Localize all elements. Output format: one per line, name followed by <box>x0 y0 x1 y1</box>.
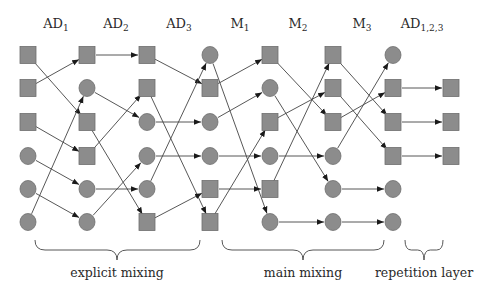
circle-node <box>79 181 95 198</box>
square-node <box>20 114 36 131</box>
edge-arrow <box>338 63 389 149</box>
square-node <box>20 80 36 97</box>
column-label: AD2 <box>102 16 129 33</box>
circle-node <box>79 214 95 231</box>
circle-node <box>79 80 95 97</box>
edge-arrow <box>34 62 81 115</box>
circle-node <box>202 148 218 165</box>
square-node <box>385 148 401 165</box>
mixing-network-diagram: AD1AD2AD3M1M2M3AD1,2,3 explicit mixingma… <box>0 0 479 290</box>
square-node <box>325 47 341 64</box>
square-node <box>79 114 95 131</box>
brace-icon <box>222 240 384 260</box>
circle-node <box>385 47 401 64</box>
edge-arrow <box>36 127 79 152</box>
section-label: explicit mixing <box>70 265 163 280</box>
edge-arrow <box>36 193 79 217</box>
edges <box>32 55 442 222</box>
edge-arrow <box>32 96 84 214</box>
circle-node <box>20 148 36 165</box>
edge-arrow <box>215 130 266 215</box>
circle-node <box>385 214 401 231</box>
square-node <box>79 47 95 64</box>
column-label: AD1 <box>42 16 69 33</box>
column-labels: AD1AD2AD3M1M2M3AD1,2,3 <box>42 16 443 33</box>
edge-arrow <box>339 95 387 150</box>
square-node <box>325 80 341 97</box>
square-node <box>262 114 278 131</box>
circle-node <box>139 148 155 165</box>
edge-arrow <box>276 62 327 116</box>
circle-node <box>139 114 155 131</box>
edge-arrow <box>218 59 262 83</box>
circle-node <box>385 181 401 198</box>
column-label: M3 <box>352 16 371 33</box>
edge-arrow <box>93 95 141 150</box>
edge-arrow <box>155 193 202 218</box>
square-node <box>325 114 341 131</box>
circle-node <box>325 181 341 198</box>
circle-node <box>20 181 36 198</box>
edge-arrow <box>274 63 329 181</box>
edge-arrow <box>155 59 202 84</box>
circle-node <box>325 214 341 231</box>
circle-node <box>262 148 278 165</box>
circle-node <box>202 114 218 131</box>
square-node <box>139 47 155 64</box>
circle-node <box>202 47 218 64</box>
edge-arrow <box>36 160 79 184</box>
square-node <box>139 214 155 231</box>
edge-arrow <box>339 62 387 116</box>
section-label: main mixing <box>264 265 342 280</box>
brace-icon <box>35 240 200 260</box>
column-label: AD3 <box>165 16 192 33</box>
square-node <box>202 181 218 198</box>
square-node <box>20 47 36 64</box>
edge-arrow <box>151 96 206 214</box>
circle-node <box>139 181 155 198</box>
square-node <box>262 181 278 198</box>
section-braces: explicit mixingmain mixingrepetition lay… <box>35 240 473 280</box>
square-node <box>385 114 401 131</box>
circle-node <box>262 214 278 231</box>
column-label: AD1,2,3 <box>400 16 444 33</box>
column-label: M1 <box>230 16 249 33</box>
circle-node <box>325 148 341 165</box>
square-node <box>443 114 459 131</box>
edge-arrow <box>278 92 325 117</box>
square-node <box>139 80 155 97</box>
square-node <box>443 148 459 165</box>
square-node <box>262 47 278 64</box>
brace-icon <box>405 240 443 260</box>
section-label: repetition layer <box>375 265 473 280</box>
nodes <box>20 47 459 231</box>
circle-node <box>20 214 36 231</box>
square-node <box>443 80 459 97</box>
edge-arrow <box>213 64 267 214</box>
circle-node <box>262 80 278 97</box>
square-node <box>385 80 401 97</box>
square-node <box>202 214 218 231</box>
square-node <box>79 148 95 165</box>
square-node <box>202 80 218 97</box>
column-label: M2 <box>288 16 307 33</box>
